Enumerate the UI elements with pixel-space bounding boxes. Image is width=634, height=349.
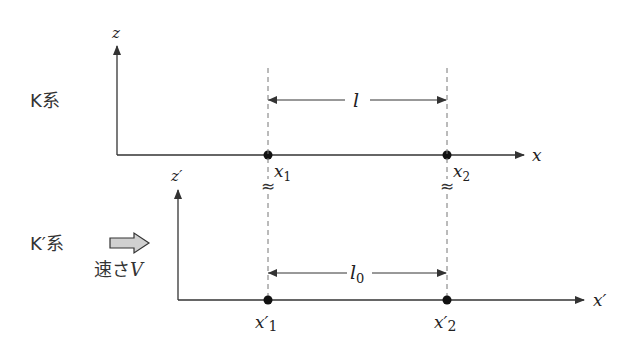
z-prime-axis-label: z′ <box>170 167 183 185</box>
point-x1-label: x1 <box>274 161 291 184</box>
break-mark-1: ≈ <box>261 176 275 196</box>
frame-k: K系 z x l x1 x2 <box>30 24 542 184</box>
point-x1-prime-label: x′1 <box>255 312 277 334</box>
frame-k-prime: K′系 速さV z′ x′ l0 x′1 x′2 <box>30 167 607 334</box>
frame-k-prime-label: K′系 <box>30 233 64 254</box>
point-x2-prime-label: x′2 <box>434 312 456 334</box>
x-axis-label: x <box>532 145 542 165</box>
x-prime-axis-label: x′ <box>593 290 607 310</box>
point-x2-prime <box>443 296 452 305</box>
z-axis-label: z <box>111 24 120 42</box>
velocity-label: 速さV <box>94 259 145 280</box>
break-mark-2: ≈ <box>440 176 454 196</box>
right-arrow-icon <box>110 233 149 253</box>
point-x1-prime <box>264 296 273 305</box>
relativity-length-diagram: K系 z x l x1 x2 ≈ ≈ K′系 速さV z′ x′ <box>0 0 634 349</box>
point-x2-label: x2 <box>453 161 470 184</box>
length-l0-label: l0 <box>350 261 364 286</box>
frame-k-label: K系 <box>30 90 60 111</box>
length-l-label: l <box>353 89 359 111</box>
